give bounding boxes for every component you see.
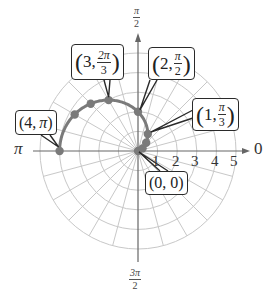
grid-ray [53, 151, 138, 200]
radial-tick-5: 5 [230, 153, 238, 170]
open-paren: ( [152, 52, 160, 76]
angle-label-pi-over-2: π 2 [133, 6, 140, 29]
callout-r-value: 4, [24, 114, 36, 132]
radial-tick-4: 4 [211, 153, 219, 170]
grid-ray [69, 82, 138, 151]
data-point [142, 139, 150, 147]
comma: , [162, 174, 170, 192]
angle-label-pi: π [14, 139, 23, 159]
callout-point-3-2pi-over-3: ( 3, 2π 3 ) [71, 44, 124, 80]
angle-label-zero: 0 [254, 139, 263, 159]
grid-ray [43, 151, 138, 176]
leader-4-pi [41, 135, 59, 147]
numerator: π [218, 101, 226, 115]
radial-tick-1: 1 [152, 153, 160, 170]
callout-point-2-pi-over-2: ( 2, π 2 ) [148, 47, 195, 80]
grid-ray [113, 151, 138, 246]
data-point [144, 130, 152, 138]
grid-ray [69, 151, 138, 220]
leader-1-pi-over-3 [151, 110, 193, 132]
callout-theta-fraction: π 3 [218, 101, 226, 128]
polar-plot-area [0, 0, 272, 302]
denominator: 2 [133, 280, 138, 291]
grid-ray [43, 126, 138, 151]
close-paren: ) [178, 174, 183, 192]
denominator: 3 [101, 63, 107, 76]
data-point [55, 147, 63, 155]
close-paren: ) [183, 52, 191, 76]
callout-r-value: 3, [83, 52, 96, 72]
callout-theta-fraction: π 2 [174, 50, 182, 77]
callout-point-4-pi: ( 4, π ) [15, 110, 57, 135]
radial-tick-3: 3 [191, 153, 199, 170]
callout-theta-fraction: 2π 3 [97, 49, 111, 76]
polar-graph: π 2 3π 2 π 0 1 2 3 4 5 ( 3, 2π 3 ) ( 2, … [0, 0, 272, 302]
callout-point-1-pi-over-3: ( 1, π 3 ) [192, 98, 239, 131]
close-paren: ) [227, 103, 235, 127]
data-point [87, 100, 95, 108]
arrow-up-icon [135, 33, 141, 42]
numerator: 3π [129, 268, 141, 280]
open-paren: ( [75, 50, 83, 74]
radial-tick-2: 2 [172, 153, 180, 170]
numerator: 2π [97, 49, 111, 63]
data-point [70, 110, 78, 118]
callout-theta-value: π [39, 114, 47, 132]
callout-theta-value: 0 [170, 174, 178, 192]
denominator: 2 [175, 64, 181, 77]
grid-ray [89, 151, 138, 236]
numerator: π [133, 6, 140, 18]
callout-point-origin: ( 0 , 0 ) [145, 171, 188, 195]
callout-r-value: 1, [204, 105, 217, 125]
arrow-right-icon [242, 148, 250, 154]
denominator: 2 [134, 18, 139, 29]
numerator: π [174, 50, 182, 64]
callout-r-value: 0 [154, 174, 162, 192]
callout-r-value: 2, [160, 54, 173, 74]
denominator: 3 [219, 115, 225, 128]
open-paren: ( [196, 103, 204, 127]
close-paren: ) [112, 50, 120, 74]
angle-label-3pi-over-2: 3π 2 [129, 268, 141, 291]
close-paren: ) [47, 114, 52, 132]
